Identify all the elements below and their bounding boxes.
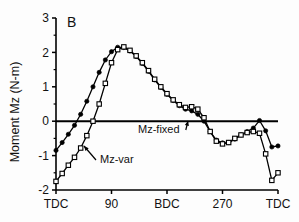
data-point-marker <box>202 116 206 120</box>
data-point-marker <box>171 98 175 102</box>
data-point-marker <box>270 178 274 182</box>
y-tick-label: 3 <box>42 11 49 25</box>
data-point-marker <box>140 61 144 65</box>
data-point-marker <box>257 118 261 122</box>
data-point-marker <box>66 163 70 167</box>
data-point-marker <box>60 171 64 175</box>
data-point-marker <box>122 45 126 49</box>
data-point-marker <box>85 99 89 103</box>
data-point-marker <box>54 148 58 152</box>
data-point-marker <box>183 105 187 109</box>
data-point-marker <box>245 130 249 134</box>
data-point-marker <box>103 81 107 85</box>
x-tick-label: 90 <box>105 197 119 211</box>
y-tick-label: 0 <box>42 114 49 128</box>
data-point-marker <box>276 144 280 148</box>
x-tick-label: 270 <box>212 197 232 211</box>
chart-canvas: Moment Mz (N-m) B -2-10123 TDC90BDC270TD… <box>0 0 299 222</box>
annotation-layer: Mz-varMz-fixed <box>84 121 189 165</box>
annotation-label: Mz-fixed <box>138 123 180 135</box>
data-point-marker <box>263 152 267 156</box>
data-point-marker <box>97 70 101 74</box>
data-point-marker <box>66 132 70 136</box>
data-point-marker <box>128 48 132 52</box>
data-point-marker <box>91 85 95 89</box>
data-point-marker <box>177 102 181 106</box>
annotation-label: Mz-var <box>100 153 134 165</box>
data-point-marker <box>208 129 212 133</box>
data-point-marker <box>152 77 156 81</box>
data-point-marker <box>103 58 107 62</box>
data-point-marker <box>115 47 119 51</box>
data-point-marker <box>165 91 169 95</box>
data-point-marker <box>78 146 82 150</box>
y-tick-labels: -2-10123 <box>38 11 49 197</box>
y-tick-label: 2 <box>42 46 49 60</box>
panel-label: B <box>67 14 76 30</box>
y-tick-label: 1 <box>42 80 49 94</box>
data-point-marker <box>159 85 163 89</box>
x-tick-labels: TDC90BDC270TDC <box>44 197 291 211</box>
data-point-marker <box>134 54 138 58</box>
data-point-marker <box>239 133 243 137</box>
data-point-marker <box>79 112 83 116</box>
data-point-marker <box>72 123 76 127</box>
series-Mz-var <box>54 45 280 184</box>
data-point-marker <box>276 171 280 175</box>
data-point-marker <box>251 129 255 133</box>
data-point-marker <box>109 61 113 65</box>
data-point-marker <box>214 139 218 143</box>
data-point-marker <box>60 140 64 144</box>
data-point-marker <box>220 142 224 146</box>
data-point-marker <box>54 179 58 183</box>
annotation-Mz-var: Mz-var <box>84 146 134 165</box>
axes-layer <box>52 18 278 194</box>
data-point-marker <box>196 112 200 116</box>
annotation-Mz-fixed: Mz-fixed <box>138 121 189 135</box>
x-tick-label: BDC <box>154 197 180 211</box>
y-tick-label: -2 <box>38 183 49 197</box>
x-tick-label: TDC <box>44 197 69 211</box>
data-point-marker <box>85 133 89 137</box>
data-point-marker <box>264 129 268 133</box>
data-point-marker <box>72 155 76 159</box>
series-line <box>56 47 278 182</box>
y-tick-label: -1 <box>38 149 49 163</box>
figure-panel-b: Moment Mz (N-m) B -2-10123 TDC90BDC270TD… <box>0 0 299 222</box>
data-point-marker <box>270 145 274 149</box>
data-point-marker <box>91 119 95 123</box>
data-point-marker <box>226 140 230 144</box>
data-point-marker <box>97 102 101 106</box>
data-point-marker <box>196 107 200 111</box>
y-axis-title: Moment Mz (N-m) <box>8 62 22 163</box>
data-point-marker <box>109 50 113 54</box>
data-point-marker <box>233 136 237 140</box>
x-tick-label: TDC <box>266 197 291 211</box>
data-point-marker <box>257 131 261 135</box>
series-layer <box>54 45 280 184</box>
data-point-marker <box>189 105 193 109</box>
data-point-marker <box>146 68 150 72</box>
